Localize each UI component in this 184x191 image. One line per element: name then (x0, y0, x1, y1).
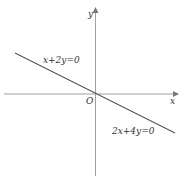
origin-label: O (86, 96, 94, 106)
x-axis-label: x (170, 96, 175, 106)
y-axis-label: y (87, 9, 94, 19)
equation-label-1: x+2y=0 (43, 55, 80, 65)
equation-label-2: 2x+4y=0 (111, 126, 155, 136)
coordinate-diagram: y x O x+2y=0 2x+4y=0 (0, 0, 184, 191)
